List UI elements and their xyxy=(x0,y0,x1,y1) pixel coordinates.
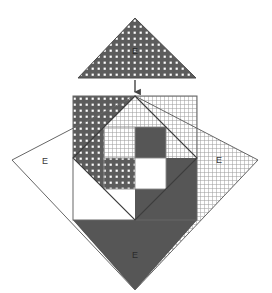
bottom-region-label: E xyxy=(132,250,138,260)
center-quadrant-top-left xyxy=(104,127,135,158)
center-quadrant-bottom-right xyxy=(135,158,166,189)
right-region-label: E xyxy=(216,155,222,165)
center-quadrant-top-right xyxy=(135,127,166,158)
dissection-diagram: E xyxy=(0,0,272,293)
center-quadrant-bottom-left xyxy=(104,158,135,189)
left-region-label: E xyxy=(42,156,48,166)
top-triangle-label: E xyxy=(132,46,138,56)
figure-root: E xyxy=(0,0,272,293)
center-grid-group xyxy=(104,127,166,189)
